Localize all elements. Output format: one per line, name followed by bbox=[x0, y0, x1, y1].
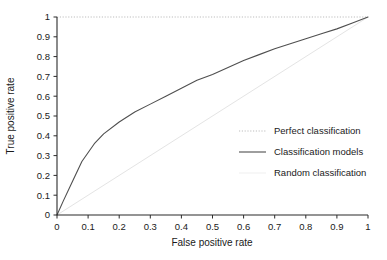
chart-canvas: 00.10.20.30.40.50.60.70.80.91 00.10.20.3… bbox=[0, 0, 387, 260]
x-tick-label: 0.4 bbox=[175, 221, 188, 232]
y-tick-label: 0.7 bbox=[37, 71, 50, 82]
x-tick-label: 0.8 bbox=[299, 221, 312, 232]
x-tick-label: 0.2 bbox=[113, 221, 126, 232]
y-tick-label: 0.3 bbox=[37, 150, 50, 161]
legend-label-classification-models: Classification models bbox=[274, 146, 363, 157]
y-tick-label: 0 bbox=[45, 209, 50, 220]
legend-label-random-classification: Random classification bbox=[274, 167, 366, 178]
y-tick-label: 0.5 bbox=[37, 110, 50, 121]
x-axis-ticks: 00.10.20.30.40.50.60.70.80.91 bbox=[54, 215, 370, 232]
x-tick-label: 0 bbox=[54, 221, 59, 232]
y-tick-label: 1 bbox=[45, 11, 50, 22]
x-axis-title: False positive rate bbox=[171, 237, 253, 248]
x-tick-label: 1 bbox=[365, 221, 370, 232]
x-tick-label: 0.9 bbox=[330, 221, 343, 232]
y-axis-title: True positive rate bbox=[5, 77, 16, 154]
y-tick-label: 0.6 bbox=[37, 91, 50, 102]
x-tick-label: 0.3 bbox=[144, 221, 157, 232]
x-tick-label: 0.6 bbox=[237, 221, 250, 232]
y-tick-label: 0.1 bbox=[37, 190, 50, 201]
x-tick-label: 0.1 bbox=[81, 221, 94, 232]
x-tick-label: 0.5 bbox=[206, 221, 219, 232]
y-axis-ticks: 00.10.20.30.40.50.60.70.80.91 bbox=[37, 11, 57, 220]
x-tick-label: 0.7 bbox=[268, 221, 281, 232]
y-tick-label: 0.4 bbox=[37, 130, 50, 141]
roc-curve-figure: 00.10.20.30.40.50.60.70.80.91 00.10.20.3… bbox=[0, 0, 387, 260]
y-tick-label: 0.2 bbox=[37, 170, 50, 181]
y-tick-label: 0.8 bbox=[37, 51, 50, 62]
legend-label-perfect-classification: Perfect classification bbox=[274, 125, 361, 136]
y-tick-label: 0.9 bbox=[37, 31, 50, 42]
